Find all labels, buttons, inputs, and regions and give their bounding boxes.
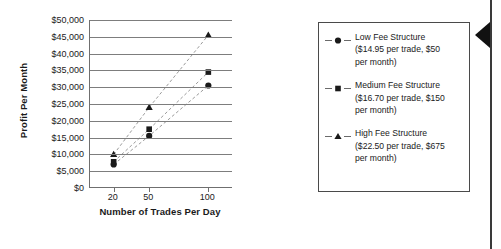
y-axis-title: Profit Per Month [18, 31, 29, 171]
x-axis-tick-labels: 2050100 [89, 192, 231, 206]
gridline [90, 171, 232, 172]
x-axis-title: Number of Trades Per Day [60, 206, 260, 217]
chart-legend: Low Fee Structure ($14.95 per trade, $50… [318, 22, 470, 192]
gridline [90, 121, 232, 122]
gridline [90, 20, 232, 21]
data-point-circle [335, 37, 341, 43]
legend-marker-circle-icon [325, 32, 353, 43]
y-tick-label: $5,000 [30, 167, 84, 176]
legend-label: Medium Fee Structure ($16.70 per trade, … [355, 79, 463, 116]
gridline [90, 87, 232, 88]
x-tick-label: 100 [187, 192, 227, 202]
x-tick-label: 50 [128, 192, 168, 202]
y-tick-label: $20,000 [30, 117, 84, 126]
y-tick-label: $30,000 [30, 83, 84, 92]
gridline [90, 54, 232, 55]
legend-label: High Fee Structure ($22.50 per trade, $6… [355, 127, 463, 164]
x-tick-label: 20 [93, 192, 133, 202]
profit-per-month-chart: Profit Per Month $50,000$45,000$40,000$3… [0, 0, 501, 249]
legend-entry: Low Fee Structure ($14.95 per trade, $50… [325, 31, 463, 68]
data-point-square [335, 86, 341, 92]
gridline [90, 154, 232, 155]
y-tick-label: $15,000 [30, 134, 84, 143]
y-tick-label: $40,000 [30, 50, 84, 59]
series-line-circle [114, 86, 209, 165]
data-point-square [111, 159, 117, 165]
legend-label: Low Fee Structure ($14.95 per trade, $50… [355, 31, 463, 68]
plot-area [89, 20, 232, 188]
legend-entry: Medium Fee Structure ($16.70 per trade, … [325, 79, 463, 116]
legend-marker-square-icon [325, 80, 353, 91]
y-tick-label: $35,000 [30, 66, 84, 75]
y-tick-label: $10,000 [30, 150, 84, 159]
series-line-square [114, 72, 209, 162]
legend-entry: High Fee Structure ($22.50 per trade, $6… [325, 127, 463, 164]
gridline [90, 138, 232, 139]
y-tick-label: $45,000 [30, 33, 84, 42]
page-edge-bar [490, 0, 492, 249]
gridline [90, 37, 232, 38]
gridline [90, 104, 232, 105]
gridline [90, 70, 232, 71]
x-axis-line [90, 187, 232, 188]
left-arrow-icon[interactable] [475, 22, 490, 48]
y-axis-tick-labels: $50,000$45,000$40,000$35,000$30,000$25,0… [30, 16, 84, 192]
y-tick-label: $50,000 [30, 16, 84, 25]
y-tick-label: $0 [30, 184, 84, 193]
y-tick-label: $25,000 [30, 100, 84, 109]
data-point-triangle [334, 133, 341, 139]
data-point-square [146, 126, 152, 132]
legend-marker-triangle-icon [325, 128, 353, 139]
